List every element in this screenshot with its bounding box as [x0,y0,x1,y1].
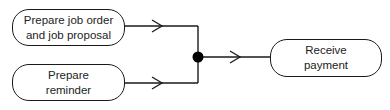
node-prepare-job-order: Prepare job order and job proposal [12,9,125,46]
join-node-icon [193,52,204,63]
node-receive-payment: Receive payment [270,39,382,77]
node-label-line: Prepare [46,68,91,83]
node-label-line: and job proposal [24,28,114,43]
node-label-line: Receive [304,43,348,58]
node-prepare-reminder: Prepare reminder [12,64,125,101]
node-label-line: Prepare job order [24,13,114,28]
node-label-line: payment [304,58,348,73]
node-label-line: reminder [46,83,91,98]
